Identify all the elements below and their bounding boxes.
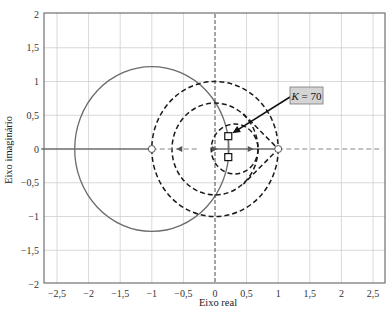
annotation-value: = 70 [299,90,322,102]
pole-marker-icon [275,146,282,153]
y-tick-label: −1,5 [21,245,39,256]
y-tick-label: −2 [28,279,39,290]
y-tick-label: 2 [34,9,39,20]
y-axis-label: Eixo imaginário [3,116,14,184]
x-tick-label: −2 [83,288,94,299]
y-tick-label: −0,5 [21,177,39,188]
y-tick-labels: 21,510,50−0,5−1−1,5−2 [21,9,39,290]
x-tick-label: 0,5 [240,288,253,299]
direction-arrow-icon [248,146,254,152]
y-tick-label: 0,5 [27,110,40,121]
x-tick-label: 1,5 [304,288,317,299]
x-tick-label: −2,5 [48,288,66,299]
direction-arrow-icon [176,146,182,152]
y-tick-label: 1,5 [27,42,40,53]
x-tick-label: −0,5 [174,288,192,299]
root-locus-chart: −2,5−2−1,5−1−0,500,511,522,5 21,510,50−0… [0,0,389,315]
x-tick-label: −1 [146,288,157,299]
x-tick-label: 2,5 [367,288,380,299]
y-tick-label: 1 [34,76,39,87]
x-tick-label: 1 [276,288,281,299]
gain-annotation: K = 70 [232,87,323,133]
x-tick-label: 2 [339,288,344,299]
zero-marker-icon [148,146,155,153]
y-tick-label: 0 [34,144,39,155]
x-axis-label: Eixo real [199,297,237,308]
annotation-arrow [237,97,290,130]
x-tick-label: −1,5 [111,288,129,299]
closed-loop-pole-upper-icon [225,133,232,140]
y-tick-label: −1 [28,211,39,222]
plot-curves [41,14,382,284]
annotation-text: K = 70 [290,90,322,102]
closed-loop-pole-lower-icon [225,154,232,161]
